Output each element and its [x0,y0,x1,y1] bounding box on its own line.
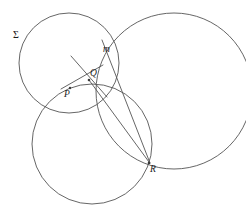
point-marker-Q [88,79,91,82]
label-Q: Q [90,68,97,78]
label-P: P [63,89,70,99]
label-m: m [103,44,110,54]
label-sigma: Σ [13,29,19,40]
chord-Q-to-R [89,80,149,162]
label-R: R [149,164,156,174]
geometry-figure-canvas: Σ m Q P R [0,0,246,213]
circle-right [96,13,246,169]
geometry-diagram: Σ m Q P R [0,0,246,213]
circle-bottom-left [32,84,152,204]
line-m-through-Q-to-R [102,40,150,163]
